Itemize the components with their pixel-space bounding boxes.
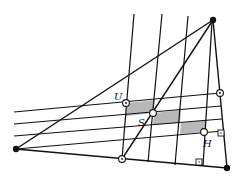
label-H: H [202,138,212,149]
vertex-point [224,165,230,171]
point-center-dot [125,102,127,104]
diagram-svg: USH [0,0,243,181]
cevian-line [122,20,213,159]
vertex-point [210,17,216,23]
label-S: S [138,117,145,128]
geometry-diagram: USH [0,0,243,181]
vertex-point [13,146,19,152]
point-H [201,129,208,136]
right-angle-dot [220,132,221,133]
vertical-line [122,14,134,159]
point-center-dot [121,158,123,160]
point-S [150,110,157,117]
right-angle-dot [198,161,199,162]
vertical-line [148,14,162,162]
point-center-dot [219,92,221,94]
label-U: U [114,91,123,102]
